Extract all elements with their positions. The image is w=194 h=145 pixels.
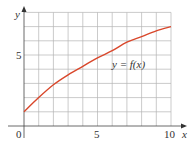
grid <box>24 12 171 126</box>
y-tick-5: 5 <box>16 49 22 61</box>
x-tick-0: 0 <box>16 128 22 140</box>
chart: 5 y 0 5 10 x y = f(x) <box>0 0 194 145</box>
y-axis-arrow-icon <box>22 6 27 12</box>
curve-label: y = f(x) <box>111 58 145 71</box>
x-tick-5: 5 <box>94 128 100 140</box>
x-axis-label: x <box>181 128 187 140</box>
x-tick-10: 10 <box>164 128 176 140</box>
y-axis-label: y <box>14 8 20 20</box>
